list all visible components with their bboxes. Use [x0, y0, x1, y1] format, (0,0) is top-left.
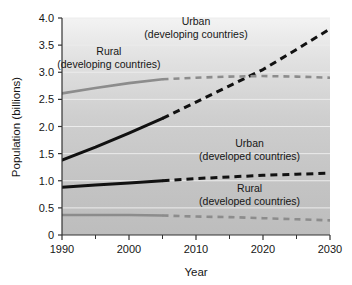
annotation-line-1: Urban [182, 15, 211, 27]
y-tick-label: 1.5 [39, 148, 54, 160]
annotation-line-2: (developing countries) [57, 58, 160, 70]
y-tick-label: 0 [48, 229, 54, 241]
annotation-line-1: Rural [237, 182, 262, 194]
annotation-line-1: Urban [235, 137, 264, 149]
annotation-line-2: (developed countries) [199, 195, 300, 207]
annotation-line-2: (developing countries) [144, 28, 247, 40]
x-axis-label: Year [184, 266, 207, 278]
y-tick-label: 2.0 [39, 121, 54, 133]
y-tick-label: 4.0 [39, 12, 54, 24]
x-tick-label: 2010 [184, 243, 208, 255]
annotation-line-1: Rural [96, 45, 121, 57]
y-tick-label: 1.0 [39, 175, 54, 187]
y-tick-label: 3.5 [39, 39, 54, 51]
x-tick-label: 1990 [50, 243, 74, 255]
population-line-chart: 00.51.01.52.02.53.03.54.0199020002010202… [0, 0, 352, 285]
y-tick-label: 2.5 [39, 93, 54, 105]
y-axis-label: Population (billions) [10, 77, 22, 178]
annotation-line-2: (developed countries) [199, 150, 300, 162]
y-tick-label: 3.0 [39, 66, 54, 78]
series-line-historical-3 [62, 215, 163, 216]
x-tick-label: 2020 [251, 243, 275, 255]
figure-container: 00.51.01.52.02.53.03.54.0199020002010202… [0, 0, 352, 285]
y-tick-label: 0.5 [39, 202, 54, 214]
x-tick-label: 2030 [318, 243, 342, 255]
x-tick-label: 2000 [117, 243, 141, 255]
